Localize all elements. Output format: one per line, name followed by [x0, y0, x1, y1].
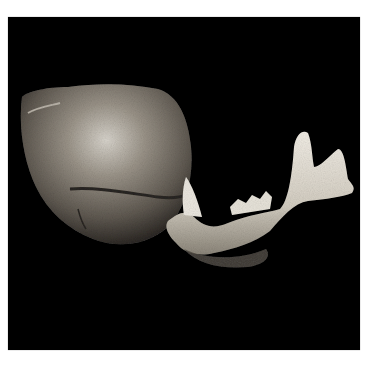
photo-frame	[8, 17, 360, 350]
cranium	[21, 84, 192, 244]
specimen-photo	[8, 17, 360, 350]
mandible	[166, 132, 353, 268]
